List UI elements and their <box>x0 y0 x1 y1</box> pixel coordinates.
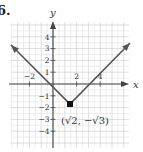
x-tick-label: −2 <box>24 72 35 81</box>
y-axis-label: y <box>49 7 56 18</box>
y-tick-label: 3 <box>45 44 50 53</box>
graph: xy−2244321−1−2−3−4(√2, −√3) <box>0 0 143 152</box>
y-tick-label: −2 <box>38 103 49 112</box>
y-tick-label: −3 <box>38 115 49 124</box>
vertex-label: (√2, −√3) <box>61 115 109 126</box>
vertex-point <box>67 101 73 107</box>
y-tick-label: −1 <box>38 92 49 101</box>
y-tick-label: 2 <box>45 56 50 65</box>
y-tick-label: 1 <box>45 68 50 77</box>
y-tick-label: 4 <box>45 33 50 42</box>
x-tick-label: 2 <box>74 72 79 81</box>
x-axis-arrow-icon <box>121 81 129 87</box>
y-tick-label: −4 <box>38 127 49 136</box>
x-axis-label: x <box>133 79 139 90</box>
